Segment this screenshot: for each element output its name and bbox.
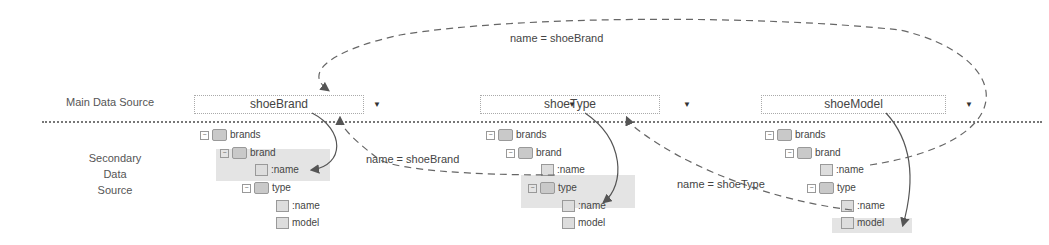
edge-label-mid1: name = shoeBrand xyxy=(366,153,459,165)
edge-label-mid2: name = shoeType xyxy=(677,178,765,190)
edge-label-top: name = shoeBrand xyxy=(510,32,603,44)
